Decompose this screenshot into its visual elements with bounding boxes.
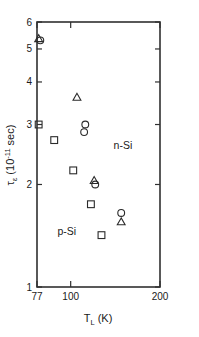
data-point-circle bbox=[82, 121, 89, 128]
data-point-circle bbox=[118, 210, 125, 217]
y-tick-label: 2 bbox=[26, 179, 32, 190]
x-tick-label: 100 bbox=[62, 291, 79, 302]
y-tick-label: 6 bbox=[26, 17, 32, 28]
x-axis-tick-labels: 77100200 bbox=[31, 291, 168, 302]
data-point-circle bbox=[81, 129, 88, 136]
plot-frame bbox=[37, 22, 160, 287]
annotation-p-si: p-Si bbox=[57, 225, 76, 237]
data-point-triangle bbox=[117, 218, 125, 225]
data-point-square bbox=[98, 232, 105, 239]
x-tick-label: 77 bbox=[31, 291, 43, 302]
data-point-triangle bbox=[90, 177, 98, 184]
y-tick-label: 5 bbox=[26, 43, 32, 54]
y-tick-label: 3 bbox=[26, 119, 32, 130]
annotation-n-si: n-Si bbox=[114, 139, 133, 151]
y-axis-title: τε (10-11 sec) bbox=[3, 125, 19, 186]
figure-container: 123456 77100200 n-Sip-Si TL (K) τε (10-1… bbox=[0, 0, 199, 337]
data-point-square bbox=[88, 201, 95, 208]
data-point-triangle bbox=[73, 93, 81, 100]
y-axis-ticks bbox=[37, 22, 160, 287]
data-point-markers bbox=[35, 35, 125, 239]
data-point-triangle bbox=[35, 35, 43, 42]
y-tick-label: 4 bbox=[26, 76, 32, 87]
x-axis-ticks bbox=[37, 22, 160, 287]
scatter-plot: 123456 77100200 n-Sip-Si TL (K) τε (10-1… bbox=[0, 0, 199, 337]
x-tick-label: 200 bbox=[152, 291, 169, 302]
data-point-square bbox=[51, 137, 58, 144]
y-axis-tick-labels: 123456 bbox=[26, 17, 32, 293]
data-point-square bbox=[70, 167, 77, 174]
x-axis-title: TL (K) bbox=[84, 312, 113, 327]
